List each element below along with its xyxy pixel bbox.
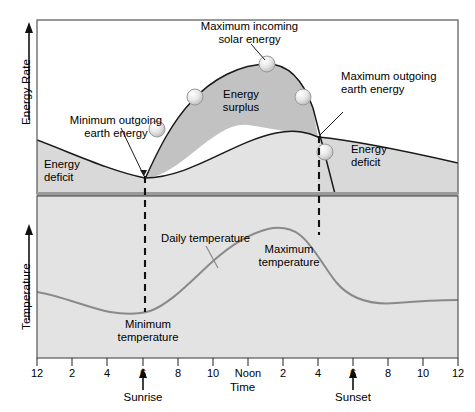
x-tick-label-12: 12	[438, 367, 475, 379]
y-axis-label-energy-rate: Energy Rate	[20, 59, 32, 125]
sunrise-label-text: Sunrise	[124, 391, 163, 403]
x-tick-label-7: 2	[263, 367, 303, 379]
x-tick-label-5: 10	[193, 367, 233, 379]
y-axis-label-temperature: Temperature	[20, 263, 32, 330]
annotation-energy-deficit-left-line2: deficit	[44, 171, 114, 184]
x-tick-label-2: 4	[87, 367, 127, 379]
annotation-energy-deficit-right-line2: deficit	[351, 156, 421, 169]
x-tick-label-9: 6	[333, 367, 373, 379]
annotation-energy-surplus-line1: Energy	[206, 88, 276, 101]
x-tick-label-4: 8	[158, 367, 198, 379]
bottom-panel-background	[37, 196, 458, 358]
sphere-marker-afternoon	[295, 89, 311, 105]
annotation-energy-surplus-line2: surplus	[206, 101, 276, 114]
sphere-marker-midmorning	[187, 89, 203, 105]
annotation-max-incoming-solar: Maximum incoming solar energy	[177, 20, 322, 45]
x-tick-label-10: 8	[368, 367, 408, 379]
x-tick-label-11: 10	[403, 367, 443, 379]
annotation-max-outgoing-line2: earth energy	[341, 83, 473, 96]
annotation-max-incoming-line1: Maximum incoming	[177, 20, 322, 33]
daily-energy-temperature-diagram	[0, 0, 475, 412]
sunset-label: Sunset	[318, 391, 388, 403]
annotation-minimum-temperature: Minimum temperature	[106, 318, 190, 343]
sunset-label-text: Sunset	[335, 391, 371, 403]
x-axis-title-text: Time	[230, 381, 255, 393]
annotation-maximum-temperature: Maximum temperature	[245, 243, 333, 268]
annotation-max-outgoing-line1: Maximum outgoing	[341, 70, 473, 83]
annotation-energy-deficit-right: Energy deficit	[351, 143, 421, 168]
annotation-maximum-temperature-line1: Maximum	[245, 243, 333, 256]
panel-divider	[37, 192, 458, 196]
annotation-energy-deficit-right-line1: Energy	[351, 143, 421, 156]
x-tick-label-3: 6	[123, 367, 163, 379]
x-axis-ticks	[37, 358, 458, 366]
annotation-energy-deficit-left-line1: Energy	[44, 158, 114, 171]
annotation-maximum-temperature-line2: temperature	[245, 256, 333, 269]
annotation-energy-deficit-left: Energy deficit	[44, 158, 114, 183]
x-tick-label-8: 4	[298, 367, 338, 379]
annotation-min-outgoing-line2: earth energy	[41, 127, 191, 140]
y-axis-label-temperature-text: Temperature	[20, 263, 32, 330]
y-axis-label-energy-rate-text: Energy Rate	[20, 59, 32, 125]
annotation-energy-surplus: Energy surplus	[206, 88, 276, 113]
annotation-min-outgoing-line1: Minimum outgoing	[41, 114, 191, 127]
temperature-panel	[37, 196, 458, 358]
x-tick-label-0: 12	[17, 367, 57, 379]
x-tick-label-1: 2	[52, 367, 92, 379]
sunrise-label: Sunrise	[108, 391, 178, 403]
x-tick-label-6: Noon	[228, 367, 268, 379]
annotation-max-outgoing-earth: Maximum outgoing earth energy	[341, 70, 473, 95]
sphere-marker-noon	[259, 56, 275, 72]
annotation-min-outgoing-earth: Minimum outgoing earth energy	[41, 114, 191, 139]
annotation-max-incoming-line2: solar energy	[177, 33, 322, 46]
annotation-minimum-temperature-line1: Minimum	[106, 318, 190, 331]
annotation-minimum-temperature-line2: temperature	[106, 331, 190, 344]
x-axis-title: Time	[230, 381, 255, 393]
